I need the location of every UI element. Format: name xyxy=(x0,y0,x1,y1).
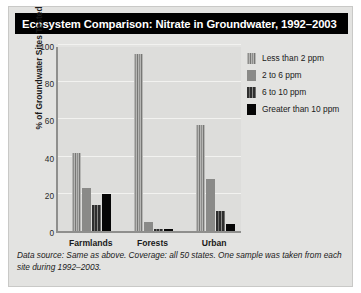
bar-farmlands-series-3 xyxy=(92,205,101,231)
legend-swatch-icon-3 xyxy=(247,87,256,98)
bar-farmlands-series-4 xyxy=(102,194,111,231)
bar-farmlands-series-1 xyxy=(72,153,81,231)
chart-figure: Ecosystem Comparison: Nitrate in Groundw… xyxy=(8,6,353,287)
gridline xyxy=(58,44,241,45)
bar-group-forests xyxy=(134,47,173,231)
bar-forests-series-3 xyxy=(154,229,163,231)
legend-label-2: 2 to 6 ppm xyxy=(262,70,302,80)
y-axis-tick-80: 80 xyxy=(45,79,54,89)
x-axis-label-urban: Urban xyxy=(202,238,227,248)
bar-urban-series-3 xyxy=(216,211,225,231)
bar-farmlands-series-2 xyxy=(82,188,91,231)
bar-urban-series-1 xyxy=(196,125,205,231)
bar-forests-series-4 xyxy=(164,229,173,231)
y-axis-tick-20: 20 xyxy=(45,191,54,201)
y-axis-tick-40: 40 xyxy=(45,154,54,164)
x-axis-label-forests: Forests xyxy=(137,238,168,248)
page-title: Ecosystem Comparison: Nitrate in Groundw… xyxy=(15,18,337,30)
y-axis-tick-100: 100 xyxy=(40,42,54,52)
legend-item-3: 6 to 10 ppm xyxy=(247,85,351,99)
plot-area: FarmlandsForestsUrban xyxy=(56,47,241,233)
y-axis-tick-labels: 020406080100 xyxy=(27,43,54,237)
bar-group-urban xyxy=(196,47,235,231)
legend-item-2: 2 to 6 ppm xyxy=(247,68,351,82)
chart-legend: Less than 2 ppm2 to 6 ppm6 to 10 ppmGrea… xyxy=(247,51,351,119)
x-axis-label-farmlands: Farmlands xyxy=(69,238,112,248)
legend-label-1: Less than 2 ppm xyxy=(262,53,324,63)
bar-forests-series-1 xyxy=(134,54,143,231)
bar-forests-series-2 xyxy=(144,222,153,231)
legend-label-4: Greater than 10 ppm xyxy=(262,104,339,114)
legend-swatch-icon-4 xyxy=(247,104,256,115)
chart-footnote: Data source: Same as above. Coverage: al… xyxy=(17,250,344,273)
bar-urban-series-4 xyxy=(226,224,235,231)
y-axis-tick-0: 0 xyxy=(49,228,54,238)
bar-urban-series-2 xyxy=(206,179,215,231)
chart-title-bar: Ecosystem Comparison: Nitrate in Groundw… xyxy=(15,13,348,34)
legend-swatch-icon-1 xyxy=(247,53,256,64)
bar-group-farmlands xyxy=(72,47,111,231)
y-axis-tick-60: 60 xyxy=(45,116,54,126)
legend-item-4: Greater than 10 ppm xyxy=(247,102,351,116)
legend-label-3: 6 to 10 ppm xyxy=(262,87,306,97)
legend-item-1: Less than 2 ppm xyxy=(247,51,351,65)
legend-swatch-icon-2 xyxy=(247,70,256,81)
